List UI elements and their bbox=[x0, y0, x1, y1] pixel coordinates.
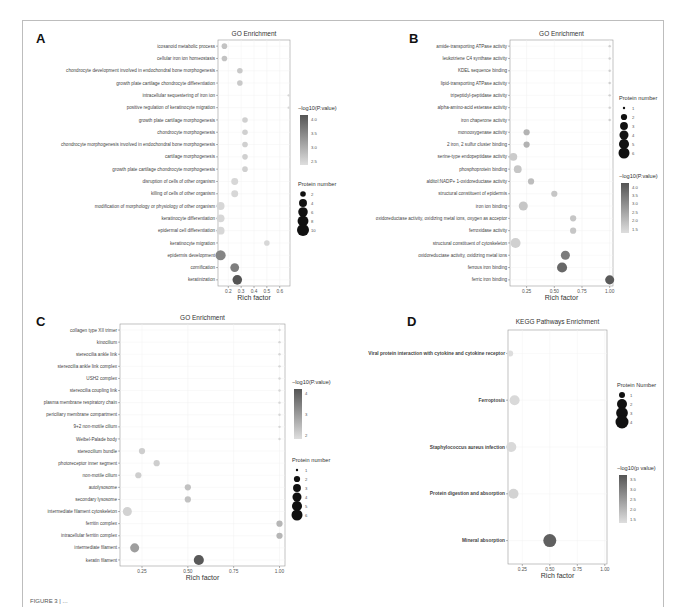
color-bar bbox=[619, 475, 627, 523]
data-point bbox=[230, 263, 239, 272]
panel-c-go-enrichment: C GO Enrichmentcollagen type XII trimerk… bbox=[30, 312, 350, 582]
panel-letter-c: C bbox=[36, 314, 45, 329]
chart-c: GO Enrichmentcollagen type XII trimerkin… bbox=[30, 312, 350, 582]
size-legend-title: Protein number bbox=[292, 457, 330, 463]
x-tick-label: 0.25 bbox=[137, 569, 147, 574]
color-legend-tick: 2 bbox=[305, 433, 308, 438]
color-legend-tick: 3.0 bbox=[632, 201, 638, 206]
data-point bbox=[242, 166, 248, 172]
y-axis-label: intermediate filament cytoskeleton bbox=[48, 509, 118, 514]
size-legend-title: Protein Number bbox=[617, 382, 656, 388]
size-legend-dot bbox=[296, 469, 298, 471]
data-point bbox=[514, 165, 522, 173]
y-axis-label: cartilage morphogenesis bbox=[165, 154, 216, 159]
y-axis-label: non-motile cilium bbox=[83, 473, 118, 478]
data-point bbox=[264, 240, 270, 246]
data-point bbox=[528, 178, 534, 184]
size-legend-dot bbox=[620, 122, 628, 130]
size-legend-label: 4 bbox=[630, 420, 633, 425]
x-tick-label: 0.2 bbox=[225, 289, 232, 294]
chart-title: KEGG Pathways Enrichment bbox=[516, 318, 600, 326]
y-axis-label: periciliary membrane compartment bbox=[46, 412, 117, 417]
color-legend-tick: 3.0 bbox=[630, 487, 636, 492]
color-legend-tick: 2.0 bbox=[632, 218, 638, 223]
y-axis-label: USH2 complex bbox=[86, 376, 117, 381]
color-legend-tick: 2.5 bbox=[630, 497, 636, 502]
chart-b: GO Enrichmentamide-transporting ATPase a… bbox=[345, 28, 665, 303]
size-legend-label: 3 bbox=[305, 486, 308, 491]
size-legend-dot bbox=[619, 130, 628, 139]
x-axis-title: Rich factor bbox=[545, 294, 579, 301]
y-axis-label: lipid-transporting ATPase activity bbox=[441, 81, 508, 86]
data-point bbox=[185, 484, 191, 490]
chart-a: GO Enrichmenticosanoid metabolic process… bbox=[30, 28, 350, 303]
data-point bbox=[217, 227, 225, 235]
size-legend-dot bbox=[299, 199, 307, 207]
y-axis-label: keratinocyte differentiation bbox=[161, 216, 215, 221]
y-axis-label: monooxygenase activity bbox=[458, 130, 508, 135]
size-legend-label: 2 bbox=[630, 402, 633, 407]
y-axis-label: disruption of cells of other organism bbox=[142, 179, 215, 184]
y-axis-label: alditol:NADP+ 1-oxidoreductase activity bbox=[426, 179, 507, 184]
chart-title: GO Enrichment bbox=[539, 30, 584, 37]
color-bar bbox=[300, 115, 308, 165]
data-point bbox=[507, 350, 513, 356]
y-axis-label: intermediate filament bbox=[74, 545, 117, 550]
y-axis-label: 9+2 non-motile cilium bbox=[73, 424, 117, 429]
panel-letter-b: B bbox=[409, 31, 418, 46]
color-legend-title: −log10(p value) bbox=[617, 465, 656, 471]
data-point bbox=[215, 250, 225, 260]
x-tick-label: 0.25 bbox=[518, 567, 528, 572]
y-axis-label: stereocilia ankle link complex bbox=[58, 364, 118, 369]
data-point bbox=[123, 507, 132, 516]
y-axis-label: growth plate cartilage chondrocyte morph… bbox=[112, 167, 215, 172]
color-legend-tick: 4.0 bbox=[632, 185, 638, 190]
data-point bbox=[608, 57, 610, 59]
x-tick-label: 0.75 bbox=[229, 569, 239, 574]
data-point bbox=[557, 263, 567, 273]
color-legend-tick: 1.5 bbox=[630, 517, 636, 522]
size-legend-label: 10 bbox=[311, 228, 316, 233]
y-axis-label: epidermal cell differentiation bbox=[158, 228, 216, 233]
x-tick-label: 0.25 bbox=[522, 289, 532, 294]
color-legend-tick: 3.5 bbox=[630, 477, 636, 482]
size-legend-dot bbox=[297, 224, 309, 236]
y-axis-label: stereocilia ankle link bbox=[76, 352, 118, 357]
size-legend-dot bbox=[292, 510, 303, 521]
data-point bbox=[278, 426, 280, 428]
y-axis-label: stereocilia coupling link bbox=[70, 388, 118, 393]
data-point bbox=[154, 460, 160, 466]
y-axis-label: serine-type endopeptidase activity bbox=[438, 154, 508, 159]
size-legend-dot bbox=[294, 476, 300, 482]
x-tick-label: 1.00 bbox=[275, 569, 285, 574]
size-legend-label: 3 bbox=[632, 124, 635, 129]
color-legend-tick: 4 bbox=[305, 391, 308, 396]
y-axis-label: Protein digestion and absorption bbox=[430, 491, 505, 496]
data-point bbox=[194, 555, 204, 565]
y-axis-label: growth plate cartilage chondrocyte diffe… bbox=[116, 81, 215, 86]
size-legend-label: 6 bbox=[311, 210, 314, 215]
size-legend-dot bbox=[292, 492, 301, 501]
panel-letter-d: D bbox=[407, 314, 416, 329]
y-axis-label: Weibel-Palade body bbox=[76, 437, 118, 442]
x-tick-label: 0.6 bbox=[276, 289, 283, 294]
y-axis-label: 2 iron, 2 sulfur cluster binding bbox=[447, 142, 507, 147]
y-axis-label: intracellular sequestering of iron ion bbox=[142, 93, 215, 98]
size-legend-dot bbox=[616, 416, 629, 429]
data-point bbox=[551, 191, 557, 197]
data-point bbox=[233, 275, 243, 285]
y-axis-label: Ferroptosis bbox=[479, 398, 506, 403]
data-point bbox=[570, 228, 576, 234]
y-axis-label: structural constituent of epidermis bbox=[438, 191, 507, 196]
y-axis-label: collagen type XII trimer bbox=[70, 328, 117, 333]
data-point bbox=[278, 389, 280, 391]
x-tick-label: 1.00 bbox=[600, 567, 610, 572]
y-axis-label: alpha-amino-acid esterase activity bbox=[438, 105, 508, 110]
size-legend-title: Protein number bbox=[619, 95, 657, 101]
data-point bbox=[509, 153, 517, 161]
data-point bbox=[276, 533, 282, 539]
x-axis-title: Rich factor bbox=[186, 574, 220, 581]
size-legend-dot bbox=[619, 148, 630, 159]
y-axis-label: KDEL sequence binding bbox=[458, 68, 508, 73]
data-point bbox=[506, 442, 516, 452]
